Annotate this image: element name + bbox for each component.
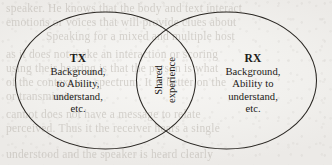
left-set-line-2: to Ability, [26,78,130,90]
left-set-line-4: etc. [26,103,130,115]
right-set-heading: RX [201,52,305,65]
scanned-page: speaker. He knows that the body and text… [0,0,332,165]
left-set-line-3: understand, [26,91,130,103]
left-set-line-1: Background, [26,66,130,78]
left-set-heading: TX [26,52,130,65]
right-set-line-3: understand, [201,91,305,103]
right-set-line-4: etc. [201,103,305,115]
overlap-line-1: Shared [153,57,166,103]
right-set-line-2: Ability to [201,78,305,90]
right-set-line-1: Background, [201,66,305,78]
overlap-line-2: experience [166,57,179,103]
right-set-label: RX Background, Ability to understand, et… [201,52,305,115]
left-set-label: TX Background, to Ability, understand, e… [26,52,130,115]
